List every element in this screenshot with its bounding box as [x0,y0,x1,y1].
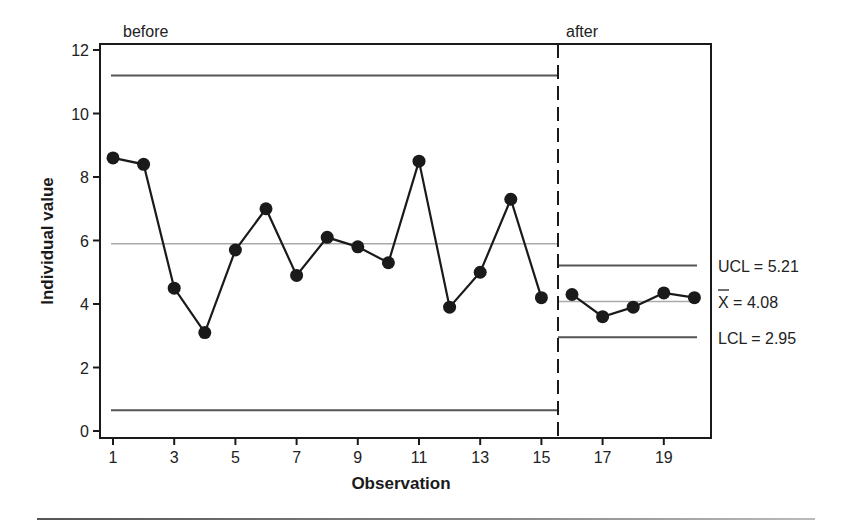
y-axis-title: Individual value [38,177,57,305]
control-chart: 024681012 135791113151719 before after U… [0,0,851,521]
data-point [535,291,548,304]
x-tick-label: 17 [594,449,612,466]
x-axis: 135791113151719 [109,438,673,466]
data-point [443,301,456,314]
series-line-before [113,158,541,333]
data-point [290,269,303,282]
data-point [168,282,181,295]
plot-frame [100,44,711,438]
x-tick-label: 9 [353,449,362,466]
data-point [657,286,670,299]
data-point [566,288,579,301]
y-tick-label: 4 [80,296,89,313]
x-axis-title: Observation [351,474,450,493]
x-tick-label: 5 [231,449,240,466]
y-tick-label: 6 [80,233,89,250]
data-point [688,291,701,304]
data-point [382,256,395,269]
data-point [596,310,609,323]
data-point [260,202,273,215]
data-point [321,231,334,244]
x-tick-label: 11 [411,449,428,466]
control-limits [111,75,697,410]
data-point [107,151,120,164]
lcl-label: LCL = 2.95 [718,330,796,347]
x-tick-label: 13 [471,449,489,466]
data-point [474,266,487,279]
x-tick-label: 1 [109,449,118,466]
x-tick-label: 7 [292,449,301,466]
data-point [413,155,426,168]
x-tick-label: 15 [533,449,551,466]
y-tick-label: 12 [71,42,89,59]
data-point [198,326,211,339]
data-point [351,240,364,253]
x-tick-label: 3 [170,449,179,466]
x-tick-label: 19 [655,449,673,466]
data-point [627,301,640,314]
ucl-label: UCL = 5.21 [718,258,799,275]
data-point [504,193,517,206]
y-tick-label: 2 [80,360,89,377]
phase-label-after: after [566,23,599,40]
bottom-rule [37,518,815,520]
center-line-label: X = 4.08 [718,290,778,311]
phase-label-before: before [123,23,168,40]
y-tick-label: 10 [71,106,89,123]
data-series [107,151,701,339]
y-tick-label: 8 [80,169,89,186]
y-axis: 024681012 [71,42,100,440]
y-tick-label: 0 [80,423,89,440]
data-point [229,244,242,257]
xbar-symbol: X = 4.08 [718,294,778,311]
data-point [137,158,150,171]
